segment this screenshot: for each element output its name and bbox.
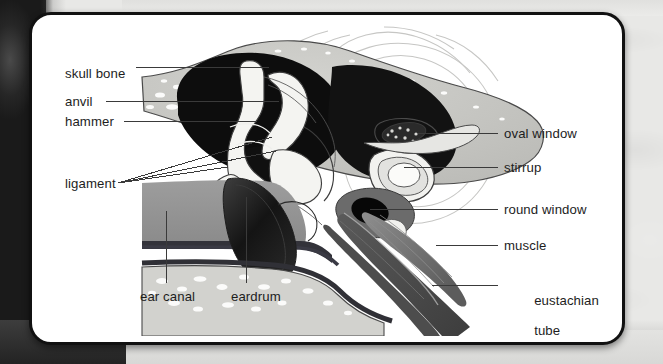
label-ear-canal: ear canal: [140, 289, 195, 304]
diagram-card: skull bone anvil hammer ligament ear can…: [29, 12, 625, 345]
label-eustachian-tube-line1: eustachian: [534, 293, 599, 308]
diagram-canvas: skull bone anvil hammer ligament ear can…: [32, 15, 622, 342]
label-muscle: muscle: [504, 238, 546, 253]
label-eustachian-tube-line2: tube: [534, 323, 560, 338]
label-round-window: round window: [504, 202, 587, 217]
screenshot-stage: skull bone anvil hammer ligament ear can…: [0, 0, 663, 364]
label-anvil: anvil: [65, 94, 93, 109]
label-oval-window: oval window: [504, 126, 577, 141]
label-stirrup: stirrup: [504, 160, 541, 175]
label-eardrum: eardrum: [231, 289, 281, 304]
label-skull-bone: skull bone: [65, 66, 125, 81]
label-hammer: hammer: [65, 114, 114, 129]
label-ligament: ligament: [65, 176, 116, 191]
label-eustachian-tube: eustachian tube: [504, 278, 599, 345]
